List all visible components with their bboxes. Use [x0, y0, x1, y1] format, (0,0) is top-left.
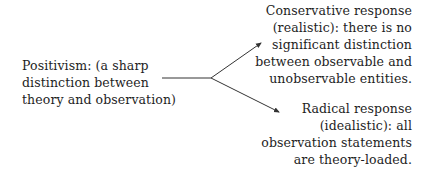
branch-connectors [0, 0, 422, 172]
arrow-to-radical-icon [211, 78, 279, 112]
arrow-to-conservative-icon [211, 43, 261, 78]
